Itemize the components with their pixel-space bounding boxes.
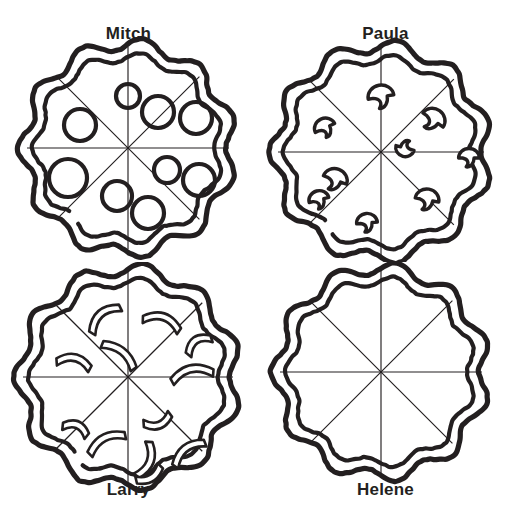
mushroom-icon	[417, 104, 450, 136]
pepper-strip-icon	[142, 410, 175, 433]
mushroom-icon	[459, 148, 480, 166]
pizza-cell-mitch: Mitch	[0, 0, 257, 262]
pizza-name-label-helene: Helene	[257, 480, 514, 500]
mushroom-icon	[311, 115, 338, 141]
mushroom-icon	[394, 138, 416, 159]
pepper-strip-icon	[141, 307, 184, 335]
slice-lines-group	[27, 47, 229, 249]
pepper-strip-icon	[169, 361, 215, 386]
mushroom-icon	[413, 187, 440, 212]
pepper-strip-icon	[60, 416, 91, 439]
pepperoni-circle-icon	[64, 109, 96, 141]
mushroom-icon	[356, 213, 378, 233]
pepper-strip-icon	[55, 350, 93, 372]
pizza-cell-larry: Larry	[0, 262, 257, 524]
slice-lines-group	[280, 271, 482, 473]
pepper-strip-icon	[84, 425, 128, 458]
mushroom-icon	[366, 83, 396, 110]
toppings-group-larry	[55, 298, 215, 489]
pizza-name-label-paula: Paula	[257, 24, 514, 44]
pizza-cell-helene: Helene	[257, 262, 514, 524]
toppings-group-mitch	[49, 84, 215, 229]
pizza-cell-paula: Paula	[257, 0, 514, 262]
slice-lines-group	[23, 272, 233, 482]
pizza-name-label-larry: Larry	[0, 480, 257, 500]
pizza-worksheet: MitchPaulaLarryHelene	[0, 0, 514, 525]
pepperoni-circle-icon	[180, 102, 212, 134]
slice-lines-group	[278, 49, 484, 255]
mushroom-icon	[307, 188, 331, 211]
mushroom-icon	[320, 165, 351, 194]
pepperoni-circle-icon	[154, 157, 180, 183]
pepperoni-circle-icon	[183, 164, 215, 196]
pizza-name-label-mitch: Mitch	[0, 24, 257, 44]
pepperoni-circle-icon	[132, 197, 164, 229]
pepperoni-circle-icon	[142, 96, 174, 128]
pepper-strip-icon	[83, 298, 123, 337]
pepperoni-circle-icon	[49, 159, 87, 197]
